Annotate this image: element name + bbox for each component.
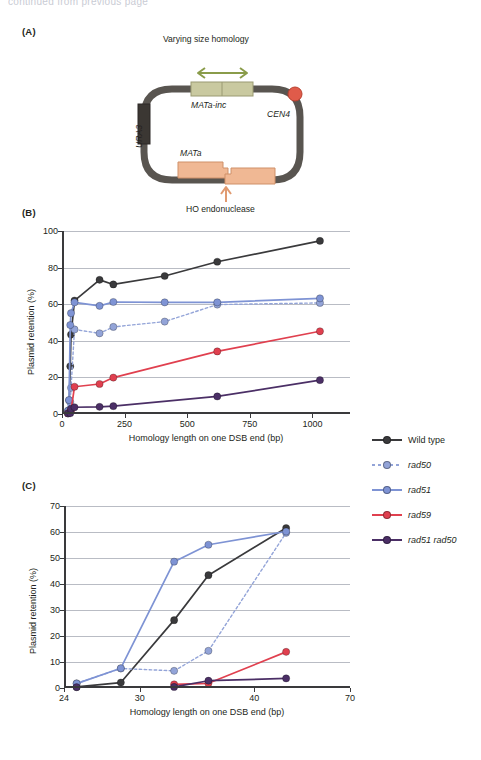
x-tick-label: 750 [242, 419, 257, 429]
legend-item-rad50[interactable]: rad50 [372, 452, 457, 477]
y-tick-mark [60, 506, 64, 507]
legend-label: Wild type [408, 435, 445, 445]
data-point-rad51 [214, 299, 221, 306]
y-tick-label: 70 [50, 501, 60, 511]
y-tick-label: 20 [48, 372, 58, 382]
plasmid-diagram [0, 22, 481, 207]
data-point-rad59 [283, 648, 290, 655]
y-tick-label: 40 [50, 579, 60, 589]
mata-inc-label: MATa-inc [191, 100, 226, 110]
panel-c-x-axis [64, 686, 350, 688]
data-point-rad59 [110, 374, 117, 381]
x-tick-mark [125, 414, 126, 418]
data-point-rad51 [171, 558, 178, 565]
panel-c-y-axis [64, 506, 66, 688]
y-tick-label: 100 [43, 226, 58, 236]
data-point-rad51 [67, 321, 74, 328]
data-point-rad51 [110, 298, 117, 305]
panel-b-y-axis [62, 231, 64, 414]
data-point-wild-type [171, 617, 178, 624]
series-layer [62, 231, 350, 414]
data-point-rad51 [316, 295, 323, 302]
data-point-rad50 [161, 318, 168, 325]
x-tick-mark [64, 688, 65, 692]
panel-b: (B) Plasmid retention (%) Homology lengt… [0, 205, 481, 473]
data-point-rad51 [205, 541, 212, 548]
data-point-rad51-rad50 [205, 677, 212, 684]
legend-label: rad50 [408, 460, 431, 470]
y-tick-label: 10 [50, 657, 60, 667]
data-point-wild-type [214, 258, 221, 265]
panel-c: (C) Plasmid retention (%) Homology lengt… [0, 478, 481, 760]
series-line-rad59 [68, 331, 320, 413]
series-line-rad51-rad50 [68, 380, 320, 413]
data-point-rad50 [171, 667, 178, 674]
series-line-wild-type [68, 241, 320, 413]
x-tick-mark [350, 688, 351, 692]
data-point-rad51-rad50 [110, 403, 117, 410]
panel-b-plot-area [62, 231, 350, 414]
data-point-wild-type [117, 679, 124, 686]
data-point-rad50 [205, 647, 212, 654]
x-tick-mark [187, 414, 188, 418]
data-point-rad51-rad50 [96, 403, 103, 410]
ura3-label: URA3 [134, 125, 144, 148]
panel-b-x-axis-title: Homology length on one DSB end (bp) [62, 433, 350, 443]
legend-item-wild-type[interactable]: Wild type [372, 427, 457, 452]
x-tick-mark [250, 414, 251, 418]
mata-label: MATa [180, 148, 202, 158]
data-point-rad51 [283, 528, 290, 535]
x-tick-label: 250 [117, 419, 132, 429]
data-point-rad51-rad50 [283, 675, 290, 682]
legend-marker-dot [383, 436, 391, 444]
y-tick-mark [58, 377, 62, 378]
x-tick-label: 24 [59, 693, 69, 703]
x-tick-mark [62, 414, 63, 418]
x-tick-mark [140, 688, 141, 692]
panel-b-plot: Homology length on one DSB end (bp) 0204… [62, 231, 350, 414]
panel-c-y-axis-title: Plasmid retention (%) [28, 568, 38, 654]
y-tick-mark [60, 662, 64, 663]
y-tick-mark [58, 341, 62, 342]
panel-c-plot: Homology length on one DSB end (bp) 0102… [64, 506, 350, 688]
y-tick-mark [60, 636, 64, 637]
x-tick-mark [254, 688, 255, 692]
x-tick-label: 1000 [302, 419, 322, 429]
legend-swatch-icon [372, 434, 402, 446]
data-point-rad51 [117, 665, 124, 672]
panel-c-x-axis-title: Homology length on one DSB end (bp) [64, 707, 350, 717]
y-tick-mark [60, 610, 64, 611]
data-point-rad51 [67, 310, 74, 317]
legend-swatch-icon [372, 459, 402, 471]
y-tick-label: 0 [55, 683, 60, 693]
y-tick-label: 40 [48, 336, 58, 346]
x-tick-label: 500 [180, 419, 195, 429]
y-tick-mark [58, 231, 62, 232]
data-point-rad51-rad50 [316, 377, 323, 384]
data-point-wild-type [316, 237, 323, 244]
panel-c-plot-area [64, 506, 350, 688]
panel-b-y-axis-title: Plasmid retention (%) [26, 289, 36, 375]
series-line-wild-type [77, 528, 287, 687]
varying-size-arrow [198, 68, 247, 78]
data-point-rad59 [316, 328, 323, 335]
data-point-wild-type [110, 281, 117, 288]
data-point-rad50 [110, 323, 117, 330]
y-tick-mark [60, 584, 64, 585]
series-line-rad51 [77, 531, 287, 683]
mata-right-box [225, 168, 275, 184]
data-point-wild-type [96, 276, 103, 283]
y-tick-mark [60, 558, 64, 559]
x-tick-label: 0 [59, 419, 64, 429]
y-tick-label: 60 [48, 299, 58, 309]
panel-a: (A) Var [0, 22, 481, 207]
x-tick-mark [312, 414, 313, 418]
y-tick-label: 20 [50, 631, 60, 641]
y-tick-mark [58, 268, 62, 269]
panel-c-label: (C) [22, 480, 36, 491]
series-layer [64, 506, 350, 688]
data-point-rad51-rad50 [214, 393, 221, 400]
ho-endonuclease-arrow [221, 187, 231, 202]
data-point-rad51 [161, 299, 168, 306]
data-point-rad59 [214, 348, 221, 355]
